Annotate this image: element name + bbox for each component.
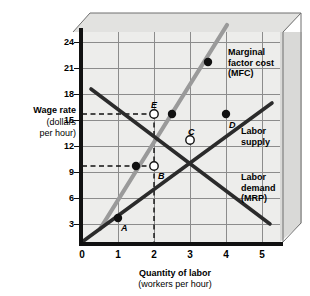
guide-lines: [82, 114, 154, 242]
curve-mfc: [100, 25, 227, 229]
y-axis-title-sub1: (dollars: [46, 117, 76, 127]
x-axis-title-sub: (workers per hour): [138, 279, 212, 289]
annotation-mfc: Marginal factor cost (MFC): [228, 47, 274, 79]
y-tick-21: 21: [50, 64, 74, 73]
annotation-demand-line2: demand: [241, 183, 276, 194]
marker-point-E: [150, 110, 158, 118]
point-label-E: E: [151, 101, 157, 110]
x-tick-5: 5: [252, 250, 272, 260]
marker-mfc-3_5: [204, 58, 212, 66]
point-label-A: A: [121, 224, 128, 233]
marker-point-D: [222, 110, 230, 118]
y-tick-label-group: 24 21 18 15 12 9 6 3: [44, 0, 74, 296]
point-label-D: D: [229, 121, 236, 130]
x-axis-title-main: Quantity of labor: [139, 268, 211, 278]
x-axis-title: Quantity of labor (workers per hour): [60, 268, 290, 290]
annotation-mfc-line1: Marginal: [228, 47, 274, 58]
annotation-mfc-line3: (MFC): [228, 68, 274, 79]
marker-point-C: [186, 136, 194, 144]
annotation-labor-supply: Labor supply: [241, 126, 270, 147]
point-label-C: C: [188, 128, 195, 137]
annotation-demand-line1: Labor: [241, 172, 276, 183]
y-axis: [79, 28, 83, 246]
annotation-labor-demand: Labor demand (MRP): [241, 172, 276, 204]
y-tick-12: 12: [50, 142, 74, 151]
y-axis-title-main: Wage rate: [33, 105, 76, 115]
annotation-mfc-line2: factor cost: [228, 58, 274, 69]
x-tick-3: 3: [180, 250, 200, 260]
x-tick-0: 0: [72, 250, 92, 260]
x-axis: [79, 242, 283, 246]
y-tick-18: 18: [50, 90, 74, 99]
y-axis-title: Wage rate (dollars per hour): [0, 105, 76, 140]
y-tick-6: 6: [50, 194, 74, 203]
marker-mfc-2_5: [168, 110, 176, 118]
marker-mfc-1_5: [132, 162, 140, 170]
annotation-supply-line1: Labor: [241, 126, 270, 137]
annotation-supply-line2: supply: [241, 137, 270, 148]
x-tick-2: 2: [144, 250, 164, 260]
y-tick-9: 9: [50, 168, 74, 177]
annotation-demand-line3: (MRP): [241, 193, 276, 204]
y-axis-title-sub2: per hour): [39, 128, 76, 138]
marker-point-A: [114, 214, 122, 222]
x-tick-4: 4: [216, 250, 236, 260]
x-tick-1: 1: [108, 250, 128, 260]
marker-point-B: [150, 162, 158, 170]
y-tick-24: 24: [50, 38, 74, 47]
chart-figure: 24 21 18 15 12 9 6 3 0 1 2 3 4 5 Wage ra…: [0, 0, 310, 296]
y-tick-3: 3: [50, 220, 74, 229]
point-label-B: B: [158, 172, 165, 181]
